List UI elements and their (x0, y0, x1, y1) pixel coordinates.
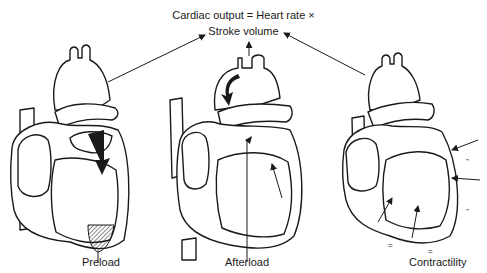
svg-text:": " (466, 207, 469, 216)
svg-text:=: = (428, 247, 433, 256)
label-afterload: Afterload (225, 256, 269, 269)
label-preload: Preload (82, 256, 120, 269)
label-contractility: Contractility (409, 256, 466, 269)
svg-text:=: = (388, 241, 393, 250)
heart-preload-icon (11, 45, 129, 262)
diagram-canvas: " " = = (0, 0, 487, 273)
heart-afterload-icon (170, 55, 302, 262)
svg-text:": " (466, 157, 469, 166)
heart-contractility-icon: " " = = (343, 53, 480, 256)
